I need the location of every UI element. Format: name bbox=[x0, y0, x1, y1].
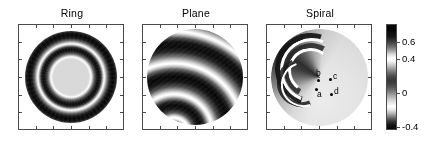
colorbar: 0.6 0.4 0 -0.4 bbox=[386, 24, 428, 130]
axis-tick bbox=[284, 126, 285, 129]
axis-tick bbox=[337, 126, 338, 129]
axis-tick bbox=[36, 126, 37, 129]
axis-tick bbox=[354, 126, 355, 129]
axis-tick bbox=[143, 42, 146, 43]
panel-title-spiral: Spiral bbox=[264, 7, 376, 19]
axis-tick bbox=[19, 77, 22, 78]
axis-tick bbox=[177, 126, 178, 129]
axis-tick bbox=[244, 59, 247, 60]
axis-tick bbox=[36, 25, 37, 28]
field-texture bbox=[25, 31, 117, 123]
figure-canvas: Ring Plane bbox=[0, 0, 428, 146]
colorbar-tick bbox=[397, 59, 400, 60]
colorbar-tick-label-1: 0.6 bbox=[402, 37, 415, 47]
axis-tick bbox=[143, 95, 146, 96]
axis-tick bbox=[89, 126, 90, 129]
axis-tick bbox=[244, 42, 247, 43]
marker-label-a: a bbox=[317, 90, 322, 99]
axis-tick bbox=[368, 95, 371, 96]
axis-tick bbox=[89, 25, 90, 28]
axis-tick bbox=[195, 25, 196, 28]
axis-tick bbox=[319, 126, 320, 129]
axis-tick bbox=[213, 25, 214, 28]
axes-ring bbox=[18, 24, 124, 130]
panel-title-plane: Plane bbox=[140, 7, 252, 19]
panel-spiral: Spiral bbox=[264, 0, 376, 146]
axis-tick bbox=[195, 126, 196, 129]
axis-tick bbox=[19, 112, 22, 113]
axis-tick bbox=[53, 25, 54, 28]
axis-tick bbox=[267, 112, 270, 113]
axis-tick bbox=[301, 25, 302, 28]
axis-tick bbox=[106, 126, 107, 129]
axis-tick bbox=[143, 112, 146, 113]
axis-tick bbox=[160, 126, 161, 129]
axis-tick bbox=[71, 126, 72, 129]
colorbar-tick bbox=[397, 127, 400, 128]
marker-label-b: b bbox=[316, 69, 321, 78]
marker-point-d bbox=[330, 93, 333, 96]
field-image-ring bbox=[25, 31, 117, 123]
marker-label-c: c bbox=[333, 72, 337, 81]
axis-tick bbox=[19, 42, 22, 43]
axis-tick bbox=[230, 25, 231, 28]
axis-tick bbox=[354, 25, 355, 28]
axis-tick bbox=[120, 59, 123, 60]
marker-point-b bbox=[317, 79, 320, 82]
axis-tick bbox=[368, 77, 371, 78]
axis-tick bbox=[71, 25, 72, 28]
axis-tick bbox=[301, 126, 302, 129]
field-image-plane bbox=[147, 29, 243, 125]
panel-plane: Plane bbox=[140, 0, 252, 146]
axis-tick bbox=[143, 77, 146, 78]
axis-tick bbox=[244, 95, 247, 96]
axis-tick bbox=[120, 112, 123, 113]
colorbar-tick-label-2: 0.4 bbox=[402, 54, 415, 64]
panel-title-ring: Ring bbox=[16, 7, 128, 19]
axis-tick bbox=[160, 25, 161, 28]
axis-tick bbox=[244, 112, 247, 113]
axis-tick bbox=[267, 42, 270, 43]
axis-tick bbox=[284, 25, 285, 28]
colorbar-tick bbox=[397, 93, 400, 94]
axis-tick bbox=[120, 95, 123, 96]
axes-plane bbox=[142, 24, 248, 130]
axis-tick bbox=[19, 95, 22, 96]
axis-tick bbox=[267, 95, 270, 96]
axis-tick bbox=[267, 59, 270, 60]
marker-point-c bbox=[329, 78, 332, 81]
axis-tick bbox=[53, 126, 54, 129]
axis-tick bbox=[213, 126, 214, 129]
axis-tick bbox=[267, 77, 270, 78]
axes-spiral: a b c d bbox=[266, 24, 372, 130]
axis-tick bbox=[244, 77, 247, 78]
colorbar-tick-label-3: 0 bbox=[402, 88, 407, 98]
colorbar-tick-label-4: -0.4 bbox=[402, 122, 418, 132]
colorbar-gradient bbox=[386, 24, 397, 130]
axis-tick bbox=[143, 59, 146, 60]
axis-tick bbox=[19, 59, 22, 60]
marker-label-d: d bbox=[334, 87, 339, 96]
axis-tick bbox=[230, 126, 231, 129]
axis-tick bbox=[337, 25, 338, 28]
axis-tick bbox=[368, 42, 371, 43]
colorbar-tick bbox=[397, 42, 400, 43]
axis-tick bbox=[319, 25, 320, 28]
axis-tick bbox=[120, 77, 123, 78]
field-texture bbox=[147, 29, 243, 125]
axis-tick bbox=[177, 25, 178, 28]
panel-ring: Ring bbox=[16, 0, 128, 146]
axis-tick bbox=[120, 42, 123, 43]
axis-tick bbox=[368, 112, 371, 113]
axis-tick bbox=[368, 59, 371, 60]
axis-tick bbox=[106, 25, 107, 28]
